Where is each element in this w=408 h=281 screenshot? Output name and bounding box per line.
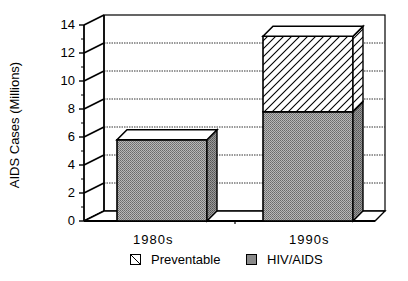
legend-label: HIV/AIDS: [267, 252, 323, 267]
hatch-swatch-icon: [130, 254, 141, 265]
y-tick-label: 8: [51, 101, 75, 116]
x-tick-1980s: 1980s: [133, 232, 173, 247]
x-tick-1990s: 1990s: [289, 232, 329, 247]
y-tick-label: 12: [51, 45, 75, 60]
stipple-swatch-icon: [246, 254, 257, 265]
y-axis-label-text: AIDS Cases (Millions): [7, 62, 22, 188]
y-tick-label: 0: [51, 213, 75, 228]
plot-area: [79, 15, 385, 224]
legend-item-hiv-aids: HIV/AIDS: [246, 252, 323, 267]
y-tick-label: 14: [51, 17, 75, 32]
y-tick-label: 2: [51, 185, 75, 200]
y-tick-label: 4: [51, 157, 75, 172]
legend-item-preventable: Preventable: [130, 252, 220, 267]
y-tick-label: 6: [51, 129, 75, 144]
y-axis-label: AIDS Cases (Millions): [4, 40, 24, 210]
legend-label: Preventable: [151, 252, 220, 267]
y-tick-label: 10: [51, 73, 75, 88]
